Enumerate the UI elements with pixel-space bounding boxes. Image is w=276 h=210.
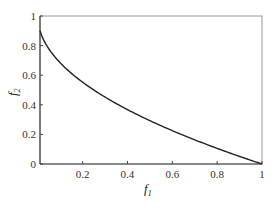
y-axis-label: f2 <box>5 88 22 96</box>
y-tick-label: 0.8 <box>22 40 36 52</box>
x-tick-label: 0.4 <box>121 168 135 180</box>
pareto-front-line <box>40 31 262 164</box>
y-tick-label: 0 <box>31 158 37 170</box>
y-tick-label: 1 <box>31 10 37 22</box>
plot-area <box>40 16 262 164</box>
x-tick-label: 0.6 <box>165 168 179 180</box>
y-tick-label: 0.6 <box>22 69 36 81</box>
x-tick-label: 1 <box>259 168 265 180</box>
x-tick-label: 0.8 <box>210 168 224 180</box>
chart: 0.20.40.60.81 00.20.40.60.81 f1 f2 <box>0 0 276 210</box>
x-tick-label: 0.2 <box>76 168 90 180</box>
x-axis-label: f1 <box>144 181 152 198</box>
y-tick-label: 0.4 <box>22 99 36 111</box>
y-tick-label: 0.2 <box>22 128 36 140</box>
